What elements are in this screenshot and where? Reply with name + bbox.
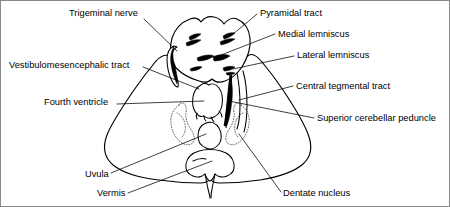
label-dentate-nucleus: Dentate nucleus: [283, 189, 350, 198]
leader-trigeminal-nerve: [144, 19, 177, 51]
label-lateral-lemniscus: Lateral lemniscus: [297, 51, 369, 60]
label-vestibulomesencephalic-tract: Vestibulomesencephalic tract: [9, 61, 129, 70]
figure-canvas: Trigeminal nerve Vestibulomesencephalic …: [0, 0, 450, 207]
label-fourth-ventricle: Fourth ventricle: [44, 98, 108, 107]
vermis-shape: [186, 150, 234, 199]
label-trigeminal-nerve: Trigeminal nerve: [69, 9, 138, 18]
label-superior-cerebellar-peduncle: Superior cerebellar peduncle: [317, 114, 436, 123]
label-uvula: Uvula: [85, 170, 109, 179]
label-medial-lemniscus: Medial lemniscus: [278, 30, 349, 39]
label-central-tegmental-tract: Central tegmental tract: [296, 82, 390, 91]
pons-outline: [171, 17, 251, 82]
label-vermis: Vermis: [97, 189, 125, 198]
label-pyramidal-tract: Pyramidal tract: [260, 9, 322, 18]
